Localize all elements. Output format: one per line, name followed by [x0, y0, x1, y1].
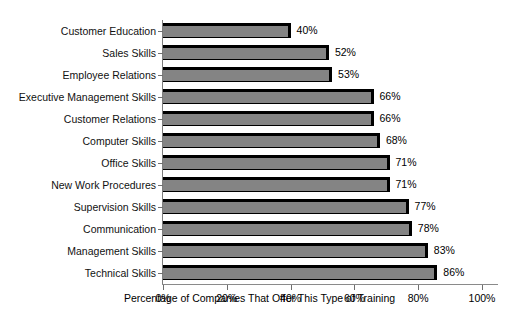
x-axis-tick-2 — [291, 285, 292, 290]
y-axis-label-2: Employee Relations — [63, 64, 158, 86]
y-axis-label-9: Communication — [83, 218, 158, 240]
bar-10 — [163, 243, 428, 258]
y-axis-label-10: Management Skills — [67, 240, 158, 262]
x-axis-tick-1 — [227, 285, 228, 290]
x-axis-tick-5 — [482, 285, 483, 290]
bar-chart: Customer Education Sales Skills Employee… — [0, 0, 519, 334]
bar-9 — [163, 221, 412, 236]
y-axis-label-1: Sales Skills — [102, 42, 158, 64]
y-axis-label-5: Computer Skills — [82, 130, 158, 152]
y-axis-label-11: Technical Skills — [85, 262, 158, 284]
x-axis-tick-3 — [354, 285, 355, 290]
y-axis-label-3: Executive Management Skills — [19, 86, 158, 108]
y-axis-label-8: Supervision Skills — [74, 196, 158, 218]
bar-value-3: 66% — [380, 89, 401, 104]
bar-6 — [163, 155, 390, 170]
bar-3 — [163, 89, 374, 104]
bar-value-11: 86% — [443, 265, 464, 280]
y-axis-label-0: Customer Education — [61, 20, 158, 42]
y-axis-label-7: New Work Procedures — [51, 174, 158, 196]
bar-11 — [163, 265, 437, 280]
bar-value-0: 40% — [297, 23, 318, 38]
bar-value-1: 52% — [335, 45, 356, 60]
bar-value-6: 71% — [396, 155, 417, 170]
x-axis-tick-4 — [418, 285, 419, 290]
bar-5 — [163, 133, 380, 148]
bar-0 — [163, 23, 291, 38]
bar-value-8: 77% — [415, 199, 436, 214]
bar-7 — [163, 177, 390, 192]
x-axis-title: Percentage of Companies That Offer This … — [0, 292, 519, 304]
y-axis-label-6: Office Skills — [101, 152, 158, 174]
bar-2 — [163, 67, 332, 82]
bar-value-9: 78% — [418, 221, 439, 236]
bar-1 — [163, 45, 329, 60]
bar-8 — [163, 199, 409, 214]
y-axis-category-labels: Customer Education Sales Skills Employee… — [0, 20, 158, 284]
x-axis-line — [162, 284, 498, 285]
bar-value-2: 53% — [338, 67, 359, 82]
x-axis-tick-0 — [163, 285, 164, 290]
bar-value-5: 68% — [386, 133, 407, 148]
y-axis-label-4: Customer Relations — [64, 108, 158, 130]
plot-area: 40% 52% 53% 66% 66% 68% 71% 71% — [163, 20, 482, 284]
bar-value-7: 71% — [396, 177, 417, 192]
bar-4 — [163, 111, 374, 126]
bar-value-10: 83% — [434, 243, 455, 258]
bar-value-4: 66% — [380, 111, 401, 126]
